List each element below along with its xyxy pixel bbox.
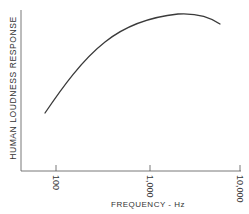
loudness-curve [45, 14, 220, 113]
x-tick-label-100: 100 [51, 175, 61, 190]
loudness-chart: 100 1,000 10,000 FREQUENCY - Hz HUMAN LO… [0, 0, 249, 214]
x-tick-label-1000: 1,000 [145, 175, 155, 198]
y-axis-label: HUMAN LOUDNESS RESPONSE [8, 16, 18, 160]
x-axis-label: FREQUENCY - Hz [111, 200, 185, 209]
x-tick-label-10000: 10,000 [235, 175, 245, 203]
